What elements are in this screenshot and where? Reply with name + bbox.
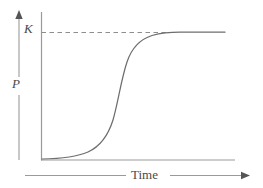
y-axis-label: P	[12, 77, 20, 90]
figure-canvas	[0, 0, 263, 188]
logistic-growth-curve	[42, 32, 225, 159]
arrow-right-icon	[241, 172, 250, 179]
y-axis-carrying-capacity-label: K	[24, 22, 33, 35]
logistic-growth-figure: K P Time	[0, 0, 263, 188]
x-axis-label: Time	[127, 168, 162, 181]
arrow-up-icon	[15, 10, 22, 19]
